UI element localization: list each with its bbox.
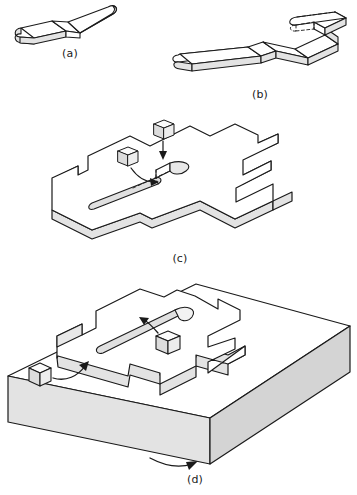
cube-callout-centre-d	[156, 331, 180, 354]
cube-callout-upper-c	[154, 120, 174, 139]
panel-c-caption: (c)	[150, 252, 210, 265]
bent-bar-b	[173, 12, 346, 71]
panel-b-caption: (b)	[230, 88, 290, 101]
arrow-caption-d-head	[186, 461, 198, 470]
bar-right-top-face	[68, 6, 117, 33]
plate-c-top-face	[52, 124, 278, 230]
bar-b-arm-side-face	[174, 62, 192, 71]
cube-callout-left-d	[29, 363, 51, 386]
panel-c	[30, 118, 320, 246]
panel-a-caption: (a)	[40, 47, 100, 60]
assembly-d	[8, 284, 350, 470]
panel-d	[0, 276, 357, 476]
cube-callout-left-c	[118, 147, 138, 166]
figure-sheet: (a)	[0, 0, 357, 495]
plate-c-thickness-right-1	[273, 192, 292, 210]
panel-d-caption: (d)	[165, 473, 225, 486]
panel-b	[168, 2, 357, 90]
castellated-plate-c	[52, 120, 292, 239]
bent-bar-a	[15, 6, 116, 44]
